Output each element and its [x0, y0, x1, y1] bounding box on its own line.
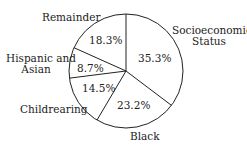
pct-childrearing: 14.5% — [82, 83, 115, 94]
label-socioeconomic-status: Socioeconomic Status — [172, 25, 246, 47]
pct-black: 23.2% — [117, 100, 150, 111]
label-line: Status — [172, 36, 246, 47]
pct-socioeconomic: 35.3% — [138, 53, 171, 64]
label-hispanic-and-asian: Hispanic and Asian — [6, 53, 66, 75]
label-remainder: Remainder — [42, 12, 100, 23]
label-line: Asian — [6, 64, 66, 75]
pct-remainder: 18.3% — [89, 35, 122, 46]
label-black: Black — [130, 131, 160, 142]
label-childrearing: Childrearing — [20, 104, 88, 115]
pct-hispanic: 8.7% — [77, 63, 104, 74]
